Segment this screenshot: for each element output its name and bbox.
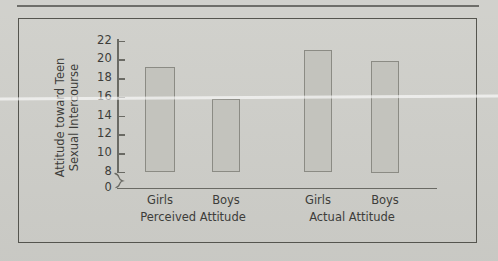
figure-border	[18, 18, 477, 243]
figure-page: 22 20 18 16 14 12 10 8 0 Girls Boys Girl…	[0, 0, 498, 261]
top-divider-rule	[17, 5, 479, 7]
